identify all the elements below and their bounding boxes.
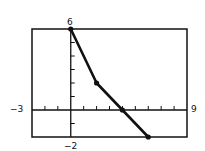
data-line: [71, 29, 149, 137]
x-min-label: −3: [10, 104, 23, 114]
tick-marks: [45, 43, 174, 124]
y-max-label: 6: [67, 17, 73, 27]
data-markers: [68, 26, 151, 139]
axes: [32, 29, 187, 137]
y-min-label: −2: [64, 141, 77, 151]
plot-frame: [32, 29, 187, 137]
data-point-marker: [146, 134, 151, 139]
data-point-marker: [94, 80, 99, 85]
chart: −3 9 6 −2: [0, 0, 205, 151]
data-point-marker: [120, 107, 125, 112]
x-max-label: 9: [191, 104, 197, 114]
data-point-marker: [68, 26, 73, 31]
